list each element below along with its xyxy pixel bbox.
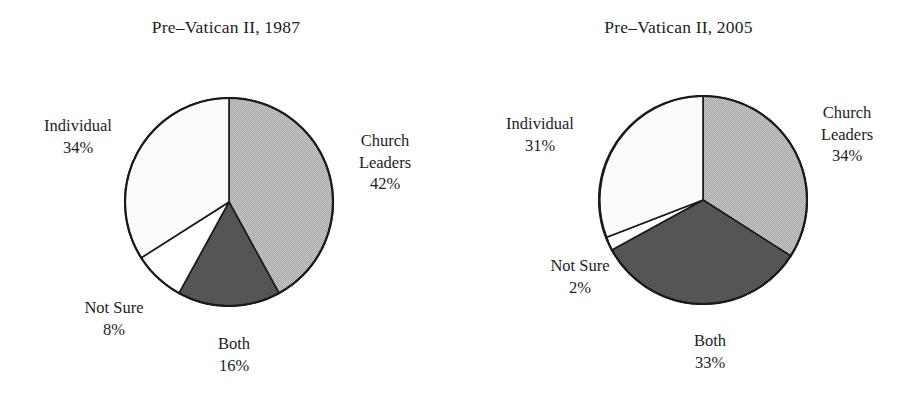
chart-panel-1987: Pre–Vatican II, 1987 bbox=[0, 0, 452, 417]
slice-label-both-value: 33% bbox=[658, 352, 762, 374]
pie-svg-1987 bbox=[124, 97, 334, 307]
slice-label-church-leaders-name-line2: Leaders bbox=[332, 152, 438, 174]
page-title-2005: Pre–Vatican II, 2005 bbox=[452, 16, 905, 38]
slice-label-individual: Individual 34% bbox=[20, 115, 136, 158]
slice-label-not-sure-name: Not Sure bbox=[60, 297, 168, 319]
slice-label-church-leaders: Church Leaders 42% bbox=[332, 130, 438, 195]
slice-label-church-leaders-value: 34% bbox=[794, 145, 900, 167]
slice-label-church-leaders: Church Leaders 34% bbox=[794, 102, 900, 167]
slice-label-church-leaders-name-line2: Leaders bbox=[794, 124, 900, 146]
slice-label-not-sure: Not Sure 2% bbox=[526, 255, 634, 298]
slice-label-not-sure-value: 8% bbox=[60, 319, 168, 341]
slice-label-church-leaders-name-line1: Church bbox=[332, 130, 438, 152]
slice-label-individual-value: 31% bbox=[482, 135, 598, 157]
slice-label-both-name: Both bbox=[182, 333, 286, 355]
slice-label-individual-name: Individual bbox=[482, 113, 598, 135]
pie-chart-figure: Pre–Vatican II, 1987 bbox=[0, 0, 905, 417]
slice-label-both: Both 33% bbox=[658, 330, 762, 373]
slice-label-not-sure-value: 2% bbox=[526, 277, 634, 299]
pie-chart-1987 bbox=[124, 97, 334, 307]
slice-label-not-sure-name: Not Sure bbox=[526, 255, 634, 277]
page-title-1987: Pre–Vatican II, 1987 bbox=[0, 16, 452, 38]
slice-label-individual: Individual 31% bbox=[482, 113, 598, 156]
slice-label-both-name: Both bbox=[658, 330, 762, 352]
slice-label-not-sure: Not Sure 8% bbox=[60, 297, 168, 340]
chart-panel-2005: Pre–Vatican II, 2005 bbox=[452, 0, 905, 417]
slice-label-church-leaders-name-line1: Church bbox=[794, 102, 900, 124]
slice-label-church-leaders-value: 42% bbox=[332, 173, 438, 195]
slice-label-individual-value: 34% bbox=[20, 137, 136, 159]
slice-label-both: Both 16% bbox=[182, 333, 286, 376]
slice-label-both-value: 16% bbox=[182, 355, 286, 377]
slice-label-individual-name: Individual bbox=[20, 115, 136, 137]
